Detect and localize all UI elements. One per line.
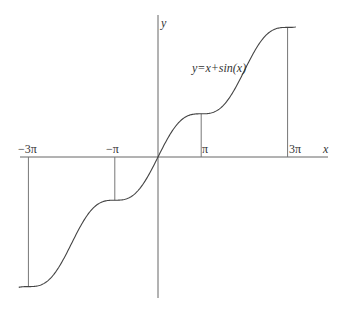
tick-label-pi: π bbox=[202, 142, 208, 156]
tick-label-3pi: 3π bbox=[289, 142, 301, 156]
tick-label-neg-pi: −π bbox=[106, 142, 119, 156]
function-label: y=x+sin(x) bbox=[191, 61, 246, 75]
tick-label-neg-3pi: −3π bbox=[18, 142, 37, 156]
function-plot: −3π −π π 3π x y y=x+sin(x) bbox=[0, 0, 345, 312]
x-axis-label: x bbox=[322, 142, 329, 156]
y-axis-label: y bbox=[160, 16, 167, 30]
